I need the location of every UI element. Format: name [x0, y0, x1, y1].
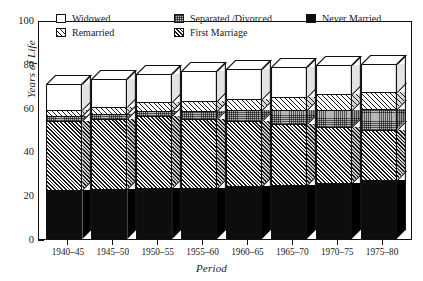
segment-divider: [46, 116, 82, 117]
bar-segment-side: [127, 119, 136, 189]
x-tick-label: 1960–65: [231, 247, 264, 257]
bar-segment-remarried[interactable]: [361, 92, 397, 108]
bar-segment-first-marriage[interactable]: [226, 121, 262, 187]
bar-segment-first-marriage[interactable]: [181, 119, 217, 188]
segment-divider: [181, 119, 217, 120]
x-tick-label: 1940–45: [52, 247, 85, 257]
bar-segment-side: [307, 185, 316, 239]
x-axis-title: Period: [0, 262, 423, 274]
y-tick-major: [38, 240, 44, 241]
segment-divider: [91, 107, 127, 108]
bar-column[interactable]: [271, 58, 316, 239]
bar-segment-first-marriage[interactable]: [91, 119, 127, 189]
segment-divider: [226, 110, 262, 111]
legend-item[interactable]: Separated /Divorced: [174, 13, 272, 24]
bar-segment-widowed[interactable]: [136, 74, 172, 102]
legend-label: Remarried: [72, 27, 114, 38]
x-tick: [247, 240, 248, 245]
bar-segment-separated-divorced[interactable]: [271, 110, 307, 124]
segment-divider: [46, 121, 82, 122]
segment-divider: [361, 109, 397, 110]
y-tick-label: 0: [6, 235, 34, 245]
segment-divider: [181, 188, 217, 189]
legend-item[interactable]: Widowed: [56, 13, 110, 24]
segment-divider: [91, 79, 127, 80]
bar-segment-separated-divorced[interactable]: [226, 110, 262, 121]
segment-divider: [316, 183, 352, 184]
segment-divider: [136, 102, 172, 103]
legend-item[interactable]: First Marriage: [174, 27, 248, 38]
segment-divider: [361, 64, 397, 65]
segment-divider: [91, 119, 127, 120]
x-tick: [112, 240, 113, 245]
bar-column[interactable]: [46, 75, 91, 239]
bar-segment-separated-divorced[interactable]: [316, 110, 352, 128]
segment-divider: [316, 110, 352, 111]
bar-segment-never-married[interactable]: [271, 185, 307, 239]
segment-divider: [181, 71, 217, 72]
bar-segment-never-married[interactable]: [91, 189, 127, 239]
chart-legend: WidowedRemarriedSeparated /DivorcedFirst…: [56, 13, 396, 43]
bar-segment-widowed[interactable]: [316, 65, 352, 95]
bar-segment-never-married[interactable]: [46, 190, 82, 239]
bar-column[interactable]: [91, 70, 136, 239]
x-tick-label: 1970–75: [321, 247, 354, 257]
legend-swatch-dense-diagonal-hatch-icon: [174, 28, 184, 37]
bar-segment-separated-divorced[interactable]: [181, 111, 217, 119]
bar-segment-widowed[interactable]: [226, 69, 262, 99]
segment-divider: [271, 97, 307, 98]
bar-segment-remarried[interactable]: [226, 99, 262, 110]
legend-label: Never Married: [322, 13, 381, 24]
bar-segment-first-marriage[interactable]: [271, 124, 307, 185]
segment-divider: [316, 127, 352, 128]
segment-divider: [181, 111, 217, 112]
bar-segment-never-married[interactable]: [361, 180, 397, 239]
bar-segment-never-married[interactable]: [136, 188, 172, 239]
bar-segment-side: [262, 186, 271, 239]
bar-segment-side: [397, 180, 406, 239]
bar-segment-never-married[interactable]: [181, 188, 217, 239]
segment-divider: [136, 116, 172, 117]
bar-segment-remarried[interactable]: [316, 94, 352, 109]
bar-segment-widowed[interactable]: [271, 67, 307, 97]
bar-segment-never-married[interactable]: [316, 183, 352, 239]
y-tick-label: 80: [6, 60, 34, 70]
segment-divider: [361, 92, 397, 93]
segment-divider: [46, 110, 82, 111]
bar-segment-first-marriage[interactable]: [316, 127, 352, 183]
segment-divider: [226, 69, 262, 70]
bar-segment-first-marriage[interactable]: [136, 116, 172, 187]
legend-item[interactable]: Never Married: [306, 13, 381, 24]
bar-segment-remarried[interactable]: [271, 97, 307, 110]
bar-column[interactable]: [181, 62, 226, 239]
bar-column[interactable]: [226, 60, 271, 239]
bar-column[interactable]: [361, 55, 406, 239]
x-tick-label: 1965–70: [276, 247, 309, 257]
segment-divider: [136, 188, 172, 189]
bar-segment-remarried[interactable]: [136, 102, 172, 111]
bar-segment-separated-divorced[interactable]: [361, 109, 397, 130]
y-tick-label: 60: [6, 104, 34, 114]
segment-divider: [136, 111, 172, 112]
bar-column[interactable]: [316, 56, 361, 239]
segment-divider: [271, 67, 307, 68]
bar-segment-widowed[interactable]: [361, 64, 397, 92]
legend-label: Widowed: [72, 13, 110, 24]
bar-segment-remarried[interactable]: [91, 107, 127, 115]
bar-column[interactable]: [136, 65, 181, 239]
bar-segment-widowed[interactable]: [181, 71, 217, 101]
x-tick: [202, 240, 203, 245]
bar-segment-side: [217, 119, 226, 188]
y-tick-label: 40: [6, 147, 34, 157]
bar-segment-first-marriage[interactable]: [361, 130, 397, 180]
bar-segment-widowed[interactable]: [46, 84, 82, 110]
bar-segment-never-married[interactable]: [226, 186, 262, 239]
bar-chart: Years of Life 020406080100 WidowedRemarr…: [0, 0, 423, 281]
bar-segment-remarried[interactable]: [181, 101, 217, 111]
segment-divider: [316, 94, 352, 95]
plot-area: [38, 21, 412, 240]
bar-segment-first-marriage[interactable]: [46, 121, 82, 190]
legend-item[interactable]: Remarried: [56, 27, 114, 38]
x-tick: [292, 240, 293, 245]
bar-segment-widowed[interactable]: [91, 79, 127, 106]
